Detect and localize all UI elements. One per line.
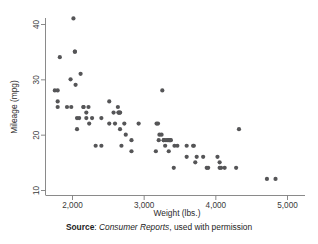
data-point [113, 122, 117, 126]
x-tick-label: 3,000 [134, 201, 155, 210]
data-point [265, 177, 269, 181]
data-point [87, 122, 91, 126]
y-axis-title: Mileage (mpg) [9, 80, 19, 134]
scatter-plot-figure: 10203040 2,0003,0004,0005,000 Mileage (m… [0, 0, 318, 244]
data-point [56, 88, 60, 92]
data-point [116, 105, 120, 109]
y-axis-ticks: 10203040 [32, 20, 45, 196]
data-point [219, 166, 223, 170]
source-label: Source [66, 222, 94, 232]
data-point [193, 160, 197, 164]
y-tick-label: 10 [32, 186, 41, 196]
data-point [215, 155, 219, 159]
data-point [58, 55, 62, 59]
data-point [156, 122, 160, 126]
data-point [77, 116, 81, 120]
data-point [124, 133, 128, 137]
data-point [172, 166, 176, 170]
data-point [175, 144, 179, 148]
x-axis-title: Weight (lbs.) [154, 208, 201, 218]
data-point [69, 105, 73, 109]
y-tick-label: 30 [32, 75, 41, 85]
data-point [137, 122, 141, 126]
data-point [185, 155, 189, 159]
data-point [56, 105, 60, 109]
data-point [119, 144, 123, 148]
data-point [218, 160, 222, 164]
data-point [86, 105, 90, 109]
data-point [129, 149, 133, 153]
data-point [73, 50, 77, 54]
data-point [167, 149, 171, 153]
data-point [159, 133, 163, 137]
data-point [273, 177, 277, 181]
data-point [71, 16, 75, 20]
data-point [73, 83, 77, 87]
source-publication: Consumer Reports [99, 222, 169, 232]
data-point [111, 110, 115, 114]
data-point [79, 72, 83, 76]
data-point [154, 149, 158, 153]
x-tick-label: 4,000 [206, 201, 227, 210]
data-point [234, 166, 238, 170]
data-point [129, 138, 133, 142]
data-point [84, 110, 88, 114]
data-point [84, 116, 88, 120]
x-tick-label: 5,000 [277, 201, 298, 210]
data-point [56, 99, 60, 103]
source-rest: , used with permission [169, 222, 252, 232]
data-point [94, 144, 98, 148]
data-point [122, 122, 126, 126]
source-caption: Source: Consumer Reports, used with perm… [0, 222, 318, 233]
data-point [81, 105, 85, 109]
data-point [237, 127, 241, 131]
y-tick-label: 20 [32, 130, 41, 140]
data-point [99, 116, 103, 120]
data-point [157, 138, 161, 142]
plot-canvas: 10203040 2,0003,0004,0005,000 Mileage (m… [0, 0, 318, 244]
data-point [192, 144, 196, 148]
data-point [169, 138, 173, 142]
data-point [107, 99, 111, 103]
data-point [223, 166, 227, 170]
y-tick-label: 40 [32, 20, 41, 30]
data-point [206, 166, 210, 170]
x-tick-label: 2,000 [62, 201, 83, 210]
data-point [185, 144, 189, 148]
data-point [118, 110, 122, 114]
data-point [65, 105, 69, 109]
data-point [195, 155, 199, 159]
data-point [99, 144, 103, 148]
data-point [68, 77, 72, 81]
data-points-layer [53, 16, 278, 181]
data-point [75, 127, 79, 131]
data-point [163, 144, 167, 148]
data-point [201, 155, 205, 159]
data-point [90, 116, 94, 120]
data-point [160, 88, 164, 92]
data-point [107, 122, 111, 126]
data-point [118, 127, 122, 131]
